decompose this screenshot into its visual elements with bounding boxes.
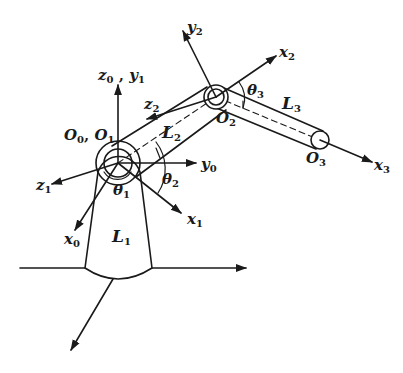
label-O0-O1: O0, O1 (64, 128, 115, 145)
label-z2: z2 (144, 97, 160, 114)
label-x3: x3 (374, 158, 390, 175)
label-z1: z1 (36, 178, 52, 195)
label-O2: O2 (216, 111, 236, 128)
label-O3: O3 (306, 151, 326, 168)
label-theta3: θ3 (247, 83, 264, 100)
diagram-drawing (0, 0, 403, 373)
label-L1: L1 (112, 228, 131, 247)
label-y2: y2 (187, 20, 203, 37)
label-x0: x0 (64, 232, 80, 249)
axis-y2 (183, 31, 216, 97)
label-y0: y0 (201, 157, 217, 174)
label-x2: x2 (279, 45, 295, 62)
robot-arm-diagram: z0 , y1 O0, O1 z1 x0 x1 y0 θ1 θ2 L1 L2 z… (0, 0, 403, 373)
axis-x3 (320, 140, 372, 162)
ground-axis-oblique (71, 279, 113, 350)
label-theta2: θ2 (162, 172, 179, 189)
label-L2: L2 (162, 124, 181, 143)
L2-dimension-tick (156, 148, 160, 158)
link-L1-body (85, 157, 152, 279)
label-theta1: θ1 (113, 183, 130, 200)
label-z0-y1: z0 , y1 (98, 68, 145, 85)
label-x1: x1 (187, 212, 203, 229)
axis-x2 (216, 56, 276, 97)
label-L3: L3 (282, 95, 301, 114)
